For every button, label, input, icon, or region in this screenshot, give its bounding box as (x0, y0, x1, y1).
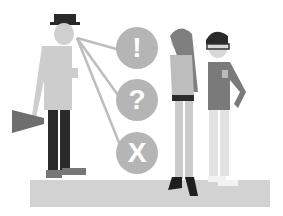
illustration: ! ? X (0, 0, 283, 216)
woman-figure (168, 28, 198, 196)
x-icon: X (128, 137, 147, 169)
question-bubble: ? (117, 80, 157, 120)
connector-lines (77, 38, 122, 150)
exclamation-bubble: ! (117, 28, 157, 68)
man-figure (12, 14, 86, 178)
exclamation-icon: ! (132, 32, 141, 64)
x-bubble: X (117, 133, 157, 173)
boy-figure (206, 32, 246, 186)
question-icon: ? (128, 84, 145, 116)
